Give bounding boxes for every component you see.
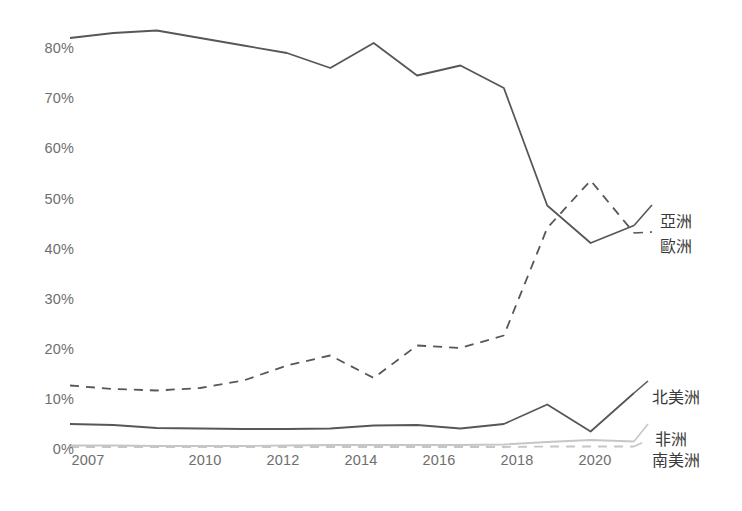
series-line-3: [70, 440, 634, 446]
y-tick-label: 70%: [18, 90, 74, 106]
y-tick-label: 20%: [18, 341, 74, 357]
y-tick-label: 80%: [18, 40, 74, 56]
series-leader-4: [634, 440, 648, 447]
x-tick-label: 2020: [565, 452, 625, 468]
series-label-2: 北美洲: [652, 384, 700, 408]
series-label-0: 亞洲: [660, 208, 692, 232]
series-leader-0: [634, 205, 652, 226]
y-tick-label: 30%: [18, 291, 74, 307]
x-tick-label: 2012: [253, 452, 313, 468]
x-tick-label: 2014: [331, 452, 391, 468]
series-label-4: 南美洲: [652, 447, 700, 471]
y-tick-label: 40%: [18, 241, 74, 257]
y-tick-label: 50%: [18, 191, 74, 207]
series-line-2: [70, 393, 634, 432]
series-leader-2: [634, 381, 648, 393]
series-lines: [70, 31, 652, 448]
x-tick-label: 2018: [487, 452, 547, 468]
x-tick-label: 2007: [58, 452, 118, 468]
x-tick-label: 2010: [175, 452, 235, 468]
series-line-1: [70, 181, 634, 391]
x-tick-label: 2016: [409, 452, 469, 468]
series-leader-1: [634, 232, 652, 233]
series-line-0: [70, 31, 634, 244]
line-chart: 0%10%20%30%40%50%60%70%80% 2007201020122…: [0, 0, 742, 511]
plot-area: [0, 0, 742, 511]
y-tick-label: 10%: [18, 391, 74, 407]
series-label-1: 歐洲: [660, 233, 692, 257]
series-leader-3: [634, 424, 648, 442]
series-line-4: [70, 447, 634, 448]
y-tick-label: 60%: [18, 140, 74, 156]
